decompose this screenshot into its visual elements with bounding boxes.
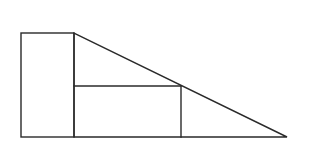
geometry-diagram	[0, 0, 316, 160]
left-rectangle	[21, 33, 74, 137]
